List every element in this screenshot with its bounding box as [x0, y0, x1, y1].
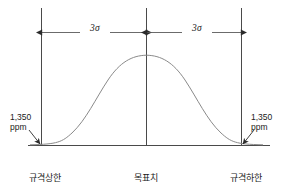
- lsl-axis-label: 규격하한 (LSL): [203, 150, 289, 186]
- ppm-right-label: 1,350 ppm: [251, 113, 287, 132]
- sigma-span-left-label: 3σ: [78, 24, 112, 34]
- target-axis-label: 목표치: [108, 150, 184, 186]
- sigma-span-right-label: 3σ: [180, 24, 214, 34]
- target-label-text: 목표치: [108, 173, 184, 185]
- ppm-left-leader-arrow: [29, 130, 40, 144]
- ppm-left-label: 1,350 ppm: [10, 113, 44, 132]
- lsl-label-line1: 규격하한: [203, 173, 289, 185]
- usl-label-line1: 규격상한: [2, 173, 88, 185]
- usl-axis-label: 규격상한 (USL): [2, 150, 88, 186]
- normal-distribution-diagram: 3σ 3σ 1,350 ppm 1,350 ppm 규격상한 (USL) 목표치…: [0, 0, 292, 186]
- ppm-right-leader-arrow: [243, 130, 254, 144]
